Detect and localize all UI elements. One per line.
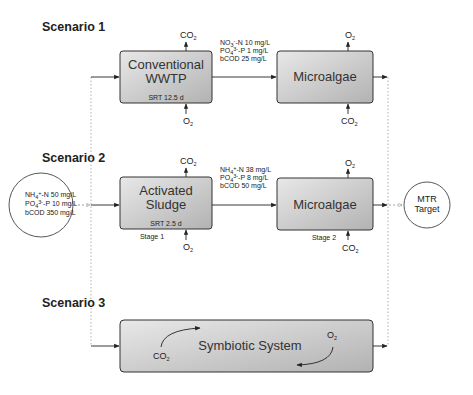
- svg-text:PO43--P 8 mg/L: PO43--P 8 mg/L: [220, 173, 268, 183]
- activated-sludge-title-1: Activated: [139, 183, 192, 198]
- s1-microalgae-co2-label: CO2: [341, 116, 358, 127]
- s2-microalgae-o2-label: O2: [345, 158, 355, 169]
- stage-2-label: Stage 2: [312, 234, 336, 242]
- mtr-target-line2: Target: [414, 204, 440, 214]
- s1-microalgae-title: Microalgae: [293, 69, 357, 84]
- scenario-2: NH4+-N 50 mg/L PO43--P 10 mg/L bCOD 350 …: [9, 156, 450, 254]
- svg-text:NO3--N 10 mg/L: NO3--N 10 mg/L: [220, 38, 270, 48]
- s1-microalgae-o2-label: O2: [345, 30, 355, 41]
- s2-microalgae-title: Microalgae: [293, 197, 357, 212]
- svg-text:bCOD 25 mg/L: bCOD 25 mg/L: [220, 55, 267, 63]
- scenario-1-label: Scenario 1: [42, 20, 105, 34]
- s2-o2-label: O2: [183, 242, 193, 253]
- scenario-2-label: Scenario 2: [42, 151, 105, 165]
- s2-effluent-quality: NH4+-N 38 mg/L PO43--P 8 mg/L bCOD 50 mg…: [220, 165, 271, 191]
- s2-microalgae-co2-label: CO2: [342, 243, 359, 254]
- s1-o2-label: O2: [183, 116, 193, 127]
- conventional-wwtp-title-1: Conventional: [128, 57, 204, 72]
- s2-srt-label: SRT 2.5 d: [150, 220, 181, 227]
- activated-sludge-title-2: Sludge: [146, 197, 186, 212]
- svg-text:bCOD 50 mg/L: bCOD 50 mg/L: [220, 182, 267, 190]
- s1-srt-label: SRT 12.5 d: [148, 94, 183, 101]
- s1-effluent-quality: NO3--N 10 mg/L PO43--P 1 mg/L bCOD 25 mg…: [220, 38, 270, 64]
- svg-text:bCOD 350 mg/L: bCOD 350 mg/L: [25, 209, 76, 217]
- scenario-3-label: Scenario 3: [42, 296, 105, 310]
- symbiotic-system-title: Symbiotic System: [198, 338, 301, 353]
- scenario-1: Conventional WWTP SRT 12.5 d CO2 O2 NO3-…: [91, 30, 387, 127]
- scenario-3: Symbiotic System CO2 O2: [91, 320, 387, 372]
- stage-1-label: Stage 1: [140, 233, 164, 241]
- conventional-wwtp-title-2: WWTP: [145, 71, 186, 86]
- svg-text:PO43--P 1 mg/L: PO43--P 1 mg/L: [220, 46, 268, 56]
- influent-quality: NH4+-N 50 mg/L PO43--P 10 mg/L bCOD 350 …: [25, 190, 77, 218]
- process-diagram: Scenario 1 Scenario 2 Scenario 3 Convent…: [0, 0, 473, 395]
- svg-text:NH4+-N 38 mg/L: NH4+-N 38 mg/L: [220, 165, 271, 175]
- s2-co2-label: CO2: [180, 156, 197, 167]
- s1-co2-label: CO2: [180, 30, 197, 41]
- mtr-target-line1: MTR: [417, 194, 437, 204]
